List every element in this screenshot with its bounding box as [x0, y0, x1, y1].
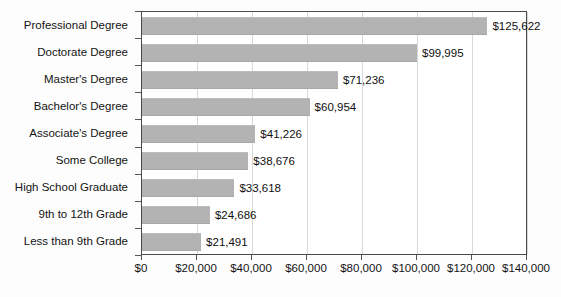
bar-value-label: $41,226 — [260, 128, 302, 140]
y-axis-tick — [135, 65, 141, 66]
category-label: Master's Degree — [44, 73, 128, 85]
category-label: Professional Degree — [24, 19, 128, 31]
category-label: Associate's Degree — [29, 127, 128, 139]
x-axis-tick — [141, 255, 142, 260]
x-axis-tick — [251, 255, 252, 260]
x-axis-tick — [471, 255, 472, 260]
x-axis-tick — [416, 255, 417, 260]
x-axis-label: $60,000 — [285, 262, 327, 275]
y-axis-tick — [135, 201, 141, 202]
plot-area: $125,622$99,995$71,236$60,954$41,226$38,… — [141, 11, 527, 255]
x-axis-tick — [306, 255, 307, 260]
gridline — [417, 12, 418, 254]
bar-value-label: $38,676 — [253, 155, 295, 167]
bar-value-label: $21,491 — [206, 236, 248, 248]
bar-value-label: $71,236 — [343, 74, 385, 86]
bar — [142, 179, 234, 197]
bar-value-label: $99,995 — [422, 47, 464, 59]
category-label: Doctorate Degree — [37, 46, 128, 58]
bar — [142, 125, 255, 143]
y-axis-tick — [135, 38, 141, 39]
bar — [142, 44, 417, 62]
bar-value-label: $60,954 — [315, 101, 357, 113]
category-axis-labels: Professional DegreeDoctorate DegreeMaste… — [0, 11, 134, 255]
bar-chart: Professional DegreeDoctorate DegreeMaste… — [0, 0, 561, 297]
bar — [142, 98, 310, 116]
value-axis-labels: $0$20,000$40,000$60,000$80,000$100,000$1… — [0, 262, 561, 282]
y-axis-tick — [135, 228, 141, 229]
x-axis-label: $140,000 — [502, 262, 550, 275]
category-label: High School Graduate — [15, 181, 128, 193]
x-axis-label: $120,000 — [447, 262, 495, 275]
x-axis-tick — [361, 255, 362, 260]
bar — [142, 71, 338, 89]
x-axis-label: $40,000 — [230, 262, 272, 275]
bar — [142, 152, 248, 170]
category-label: 9th to 12th Grade — [38, 208, 128, 220]
category-label: Less than 9th Grade — [24, 235, 128, 247]
bar — [142, 206, 210, 224]
gridline — [527, 12, 528, 254]
bar-value-label: $24,686 — [215, 209, 257, 221]
x-axis-label: $20,000 — [175, 262, 217, 275]
y-axis-tick — [135, 174, 141, 175]
category-label: Bachelor's Degree — [34, 100, 128, 112]
x-axis-label: $80,000 — [340, 262, 382, 275]
category-label: Some College — [56, 154, 128, 166]
bar — [142, 17, 487, 35]
x-axis-label: $0 — [135, 262, 148, 275]
bar-value-label: $33,618 — [239, 182, 281, 194]
x-axis-tick — [196, 255, 197, 260]
y-axis-tick — [135, 11, 141, 12]
x-axis-label: $100,000 — [392, 262, 440, 275]
x-axis-tick — [526, 255, 527, 260]
gridline — [472, 12, 473, 254]
y-axis-tick — [135, 119, 141, 120]
y-axis-tick — [135, 92, 141, 93]
bar-value-label: $125,622 — [492, 20, 540, 32]
bar — [142, 233, 201, 251]
y-axis-tick — [135, 147, 141, 148]
